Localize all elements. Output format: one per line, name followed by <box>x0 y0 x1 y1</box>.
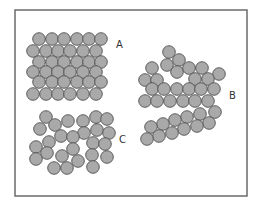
particle <box>158 83 171 96</box>
particle <box>27 88 40 101</box>
particle <box>46 76 59 89</box>
particle <box>87 161 100 174</box>
particle <box>171 83 184 96</box>
particle <box>208 83 221 96</box>
particle <box>101 151 114 164</box>
group-label-a: A <box>116 39 123 50</box>
particle <box>91 124 104 137</box>
particle <box>183 83 196 96</box>
particle <box>43 136 56 149</box>
particle <box>34 123 47 136</box>
particle <box>33 76 46 89</box>
particle <box>71 76 84 89</box>
particle <box>95 33 108 46</box>
particle <box>30 153 43 166</box>
particle <box>141 133 154 146</box>
particle <box>203 117 216 130</box>
particle <box>90 88 103 101</box>
particle <box>146 62 159 75</box>
particle <box>41 147 54 160</box>
particle <box>178 123 191 136</box>
particle <box>90 111 103 124</box>
particle <box>189 95 202 108</box>
particle <box>58 33 71 46</box>
particle <box>71 33 84 46</box>
particle <box>46 33 59 46</box>
particle <box>48 162 61 175</box>
particle <box>30 141 43 154</box>
particle <box>40 45 53 58</box>
particle <box>181 111 194 124</box>
particle <box>67 143 80 156</box>
particle <box>164 95 177 108</box>
particle <box>99 138 112 151</box>
particle <box>146 83 159 96</box>
particle <box>64 45 77 58</box>
particle <box>27 45 40 58</box>
particle <box>83 33 96 46</box>
particle <box>77 115 90 128</box>
particle <box>86 149 99 162</box>
particle <box>139 95 152 108</box>
particle <box>62 115 75 128</box>
particle <box>151 95 164 108</box>
particle <box>101 113 114 126</box>
particle-diagram: A B C <box>0 0 263 201</box>
particle <box>87 137 100 150</box>
particle <box>177 95 190 108</box>
particle <box>183 62 196 75</box>
particle <box>72 155 85 168</box>
particle <box>52 45 65 58</box>
particle <box>209 106 222 119</box>
particle <box>40 88 53 101</box>
particle <box>56 150 69 163</box>
particle <box>191 120 204 133</box>
particle <box>49 119 62 132</box>
particle <box>83 76 96 89</box>
particle <box>77 45 90 58</box>
particle <box>153 130 166 143</box>
particle <box>67 131 80 144</box>
particle <box>95 76 108 89</box>
particle <box>77 88 90 101</box>
particle <box>196 62 209 75</box>
group-label-c: C <box>119 134 126 145</box>
particle <box>202 95 215 108</box>
particle <box>58 76 71 89</box>
particle <box>166 127 179 140</box>
particle <box>171 66 184 79</box>
particle <box>64 88 77 101</box>
particle <box>33 33 46 46</box>
particle <box>52 88 65 101</box>
group-label-b: B <box>229 90 236 101</box>
particle <box>195 83 208 96</box>
particle <box>55 130 68 143</box>
particle <box>61 162 74 175</box>
